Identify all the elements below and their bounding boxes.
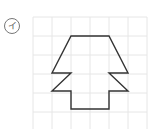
grid-diagram <box>0 0 150 129</box>
grid-lines <box>33 17 147 129</box>
